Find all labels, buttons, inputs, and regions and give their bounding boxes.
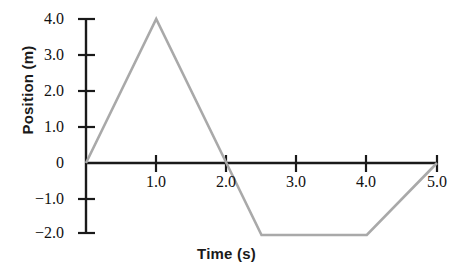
x-tick-label-5: 5.0 [415, 173, 453, 191]
position-series-line [86, 19, 437, 235]
y-axis-title: Position (m) [19, 45, 36, 134]
x-axis-title: Time (s) [0, 245, 453, 262]
y-tick-label-neg1: −1.0 [16, 190, 64, 208]
x-tick-label-1: 1.0 [134, 173, 178, 191]
y-tick-label-neg2: −2.0 [16, 224, 64, 242]
x-tick-label-2: 2.0 [204, 173, 248, 191]
chart-figure: 4.0 3.0 2.0 1.0 0 −1.0 −2.0 1.0 2.0 3.0 … [0, 0, 453, 271]
x-tick-label-3: 3.0 [274, 173, 318, 191]
y-axis-title-wrapper: Position (m) [0, 15, 117, 165]
x-tick-label-4: 4.0 [344, 173, 388, 191]
